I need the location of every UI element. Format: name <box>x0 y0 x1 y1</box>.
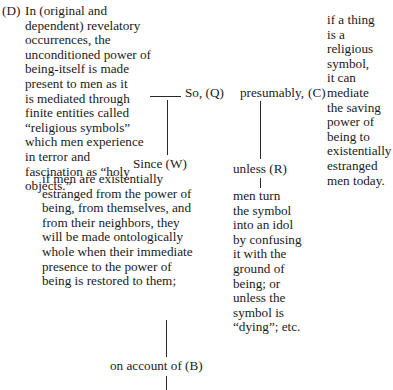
claim-line: it can <box>327 71 391 86</box>
claim-line: mediate <box>327 86 391 101</box>
data-line: dependent) revelatory <box>25 19 151 34</box>
claim-line: symbol, <box>327 57 391 72</box>
rebuttal-line: being; or <box>233 277 302 292</box>
warrant-line: whole when their immediate <box>42 245 193 260</box>
backing-continuation-line <box>166 376 167 390</box>
warrant-line: if men are existentially <box>42 172 193 187</box>
data-line: being-itself is made <box>25 62 151 77</box>
backing-connector-line <box>166 320 167 357</box>
warrant-line: being, from themselves, and <box>42 201 193 216</box>
data-line: unconditioned power of <box>25 48 151 63</box>
warrant-statement: if men are existentially estranged from … <box>42 172 193 289</box>
claim-line: existentially <box>327 144 391 159</box>
data-line: occurrences, the <box>25 33 151 48</box>
claim-label: (C) <box>308 86 326 101</box>
warrant-line: will be made ontologically <box>42 230 193 245</box>
data-to-claim-connector <box>150 96 181 97</box>
warrant-line: from their neighbors, they <box>42 216 193 231</box>
rebuttal-line: the symbol <box>233 204 302 219</box>
so-connector: So, (Q) <box>185 86 224 101</box>
claim-line: is a <box>327 28 391 43</box>
warrant-connector-line <box>167 100 168 155</box>
rebuttal-line: ground of <box>233 262 302 277</box>
claim-line: estranged <box>327 159 391 174</box>
claim-line: men today. <box>327 174 391 189</box>
rebuttal-line: men turn <box>233 189 302 204</box>
claim-statement: if a thing is a religious symbol, it can… <box>327 13 391 188</box>
warrant-line: estranged from the power of <box>42 187 193 202</box>
claim-line: if a thing <box>327 13 391 28</box>
rebuttal-connector-line <box>260 101 261 159</box>
data-label: (D) <box>2 4 20 19</box>
claim-line: being to <box>327 130 391 145</box>
data-line: “religious symbols” <box>25 121 151 136</box>
rebuttal-line: into an idol <box>233 218 302 233</box>
warrant-connector: Since (W) <box>133 157 187 172</box>
rebuttal-connector: unless (R) <box>233 162 287 177</box>
claim-line: religious <box>327 42 391 57</box>
data-line: present to men as it <box>25 77 151 92</box>
rebuttal-line: “dying”; etc. <box>233 320 302 335</box>
rebuttal-line: by confusing <box>233 233 302 248</box>
claim-line: power of <box>327 115 391 130</box>
backing-connector: on account of (B) <box>110 359 203 374</box>
data-line: is mediated through <box>25 92 151 107</box>
rebuttal-statement: men turn the symbol into an idol by conf… <box>233 189 302 335</box>
data-line: In (original and <box>25 4 151 19</box>
data-line: finite entities called <box>25 106 151 121</box>
claim-line: the saving <box>327 101 391 116</box>
warrant-line: being is restored to them; <box>42 274 193 289</box>
rebuttal-line: it with the <box>233 247 302 262</box>
data-line: which men experience <box>25 135 151 150</box>
qualifier: presumably, <box>240 86 304 101</box>
rebuttal-line: symbol is <box>233 306 302 321</box>
rebuttal-line: unless the <box>233 291 302 306</box>
warrant-line: presence to the power of <box>42 260 193 275</box>
rebuttal-statement-line <box>260 178 261 188</box>
